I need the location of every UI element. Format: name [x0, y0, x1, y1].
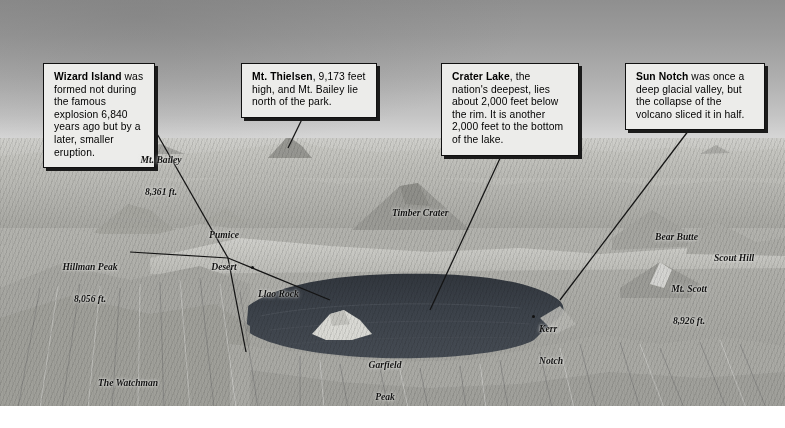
callout-text-crater-lake: , the nation's deepest, lies about 2,000…: [452, 71, 563, 145]
callout-sun-notch[interactable]: Sun Notch was once a deep glacial valley…: [625, 63, 765, 130]
maplabel-llao-rock: Llao Rock: [258, 267, 299, 321]
callout-term-crater-lake: Crater Lake: [452, 71, 510, 82]
callout-mt-thielsen[interactable]: Mt. Thielsen, 9,173 feet high, and Mt. B…: [241, 63, 377, 118]
callout-term-sun-notch: Sun Notch: [636, 71, 688, 82]
maplabel-the-watchman: The Watchman: [98, 356, 158, 410]
maplabel-hillman-peak: Hillman Peak 8,056 ft.: [42, 240, 138, 326]
callout-term-wizard-island: Wizard Island: [54, 71, 122, 82]
maplabel-mt-bailey-elev: 8,361 ft.: [118, 187, 204, 198]
maplabel-hillman-peak-name: Hillman Peak: [42, 262, 138, 273]
maplabel-mt-scott-elev: 8,926 ft.: [652, 316, 726, 327]
maplabel-llao-rock-name: Llao Rock: [258, 289, 299, 300]
callout-term-mt-thielsen: Mt. Thielsen: [252, 71, 313, 82]
maplabel-garfield-peak-line2: Peak: [358, 392, 412, 403]
maplabel-kerr-notch-line1: Kerr: [539, 324, 563, 335]
marker-dot-kerr-notch: [532, 315, 535, 318]
maplabel-pumice-desert-line1: Pumice: [192, 230, 256, 241]
maplabel-timber-crater-name: Timber Crater: [392, 208, 448, 219]
maplabel-mt-bailey-name: Mt. Bailey: [118, 155, 204, 166]
maplabel-pumice-desert: Pumice Desert: [192, 208, 256, 294]
maplabel-pumice-desert-line2: Desert: [192, 262, 256, 273]
maplabel-mt-scott: Mt. Scott 8,926 ft.: [652, 262, 726, 348]
maplabel-timber-crater: Timber Crater: [392, 186, 448, 240]
maplabel-mt-bailey: Mt. Bailey 8,361 ft.: [118, 133, 204, 219]
marker-dot-llao-rock: [251, 266, 254, 269]
maplabel-kerr-notch: Kerr Notch: [539, 302, 563, 388]
crater-lake-panorama: Wizard Island was formed not during the …: [0, 0, 785, 428]
maplabel-hillman-peak-elev: 8,056 ft.: [42, 294, 138, 305]
maplabel-mt-scott-name: Mt. Scott: [652, 284, 726, 295]
maplabel-garfield-peak-line1: Garfield: [358, 360, 412, 371]
callout-crater-lake[interactable]: Crater Lake, the nation's deepest, lies …: [441, 63, 579, 156]
maplabel-the-watchman-name: The Watchman: [98, 378, 158, 389]
maplabel-kerr-notch-line2: Notch: [539, 356, 563, 367]
maplabel-bear-butte-name: Bear Butte: [655, 232, 698, 243]
maplabel-garfield-peak: Garfield Peak: [358, 338, 412, 424]
maplabel-bear-butte: Bear Butte: [655, 210, 698, 264]
